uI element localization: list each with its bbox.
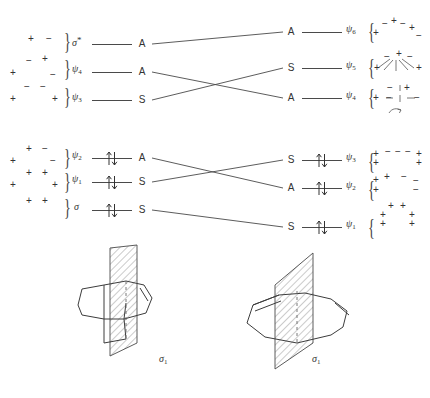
- orbital-sign: +: [42, 196, 48, 206]
- orbital-sign: +: [26, 168, 32, 178]
- correlation-line-6: [152, 210, 283, 227]
- orbital-label-psi2-right: ψ2: [346, 179, 356, 192]
- orbital-label-psi3-right: ψ3: [346, 151, 356, 164]
- energy-level-line: [92, 44, 132, 45]
- orbital-sign: −: [40, 82, 46, 92]
- orbital-sign: +: [42, 168, 48, 178]
- orbital-sign: −: [382, 19, 388, 29]
- orbital-label-sigma-star: σ*: [72, 35, 81, 48]
- orbital-sign: +: [26, 196, 32, 206]
- electron-pair: [314, 153, 330, 168]
- orbital-sign: −: [416, 31, 422, 41]
- orbital-brace: }: [64, 85, 71, 108]
- correlation-line-1: [152, 32, 283, 44]
- symmetry-label: A: [136, 152, 148, 163]
- orbital-brace: }: [64, 170, 71, 193]
- orbital-sign: +: [10, 68, 16, 78]
- orbital-label-psi2: ψ2: [72, 149, 82, 162]
- orbital-correlation-diagram: + − } σ* A − + + − } ψ4 A − − + + } ψ3 S…: [0, 0, 430, 398]
- orbital-sign: −: [413, 185, 419, 195]
- orbital-sign: −: [395, 147, 401, 157]
- electron-pair: [104, 151, 120, 166]
- orbital-sign: +: [409, 23, 415, 33]
- mirror-plane: [275, 253, 313, 369]
- symmetry-label: A: [285, 92, 297, 103]
- orbital-sign: +: [26, 144, 32, 154]
- orbital-sign: +: [52, 180, 58, 190]
- orbital-sign: +: [10, 180, 16, 190]
- orbital-brace: {: [368, 216, 375, 239]
- electron-pair: [314, 220, 330, 235]
- orbital-sign: +: [396, 49, 402, 59]
- orbital-sign: −: [26, 56, 32, 66]
- energy-level-line: [302, 68, 342, 69]
- orbital-sign: +: [416, 63, 422, 73]
- symmetry-label: S: [136, 176, 148, 187]
- orbital-sign: −: [405, 147, 411, 157]
- orbital-sign: −: [50, 156, 56, 166]
- orbital-brace: }: [64, 146, 71, 169]
- orbital-annotation-arrow: [388, 106, 404, 116]
- orbital-sign: +: [373, 28, 379, 38]
- orbital-sign: +: [373, 185, 379, 195]
- orbital-label-psi6: ψ6: [346, 23, 356, 36]
- reactant-plane-label: σ1: [159, 353, 167, 366]
- orbital-label-psi1: ψ1: [72, 173, 82, 186]
- energy-level-line: [92, 72, 132, 73]
- energy-level-line: [302, 98, 342, 99]
- orbital-sign: +: [28, 34, 34, 44]
- orbital-sign: +: [42, 54, 48, 64]
- electron-pair: [104, 175, 120, 190]
- orbital-sign: +: [416, 158, 422, 168]
- symmetry-label: A: [136, 66, 148, 77]
- symmetry-label: S: [285, 62, 297, 73]
- orbital-sign: −: [50, 70, 56, 80]
- orbital-label-psi4-right: ψ4: [346, 89, 356, 102]
- symmetry-label: A: [136, 38, 148, 49]
- orbital-sign: +: [409, 219, 415, 229]
- orbital-sign: +: [391, 16, 397, 26]
- orbital-sign: +: [388, 201, 394, 211]
- electron-pair: [314, 181, 330, 196]
- orbital-sign: −: [24, 82, 30, 92]
- orbital-sign: −: [46, 34, 52, 44]
- orbital-sign: +: [380, 219, 386, 229]
- correlation-line-3: [152, 68, 283, 100]
- correlation-line-2: [152, 72, 283, 98]
- correlation-line-4: [152, 158, 283, 188]
- orbital-brace: }: [64, 57, 71, 80]
- correlation-line-5: [152, 160, 283, 182]
- product-plane-label: σ1: [312, 353, 320, 366]
- orbital-sign: +: [52, 94, 58, 104]
- orbital-sign: +: [384, 172, 390, 182]
- symmetry-label: A: [285, 26, 297, 37]
- orbital-sign: +: [373, 158, 379, 168]
- orbital-sign: −: [42, 144, 48, 154]
- orbital-sign: +: [10, 94, 16, 104]
- symmetry-label: S: [285, 154, 297, 165]
- reactant-structure: [60, 243, 210, 378]
- orbital-sign: −: [385, 147, 391, 157]
- symmetry-label: S: [285, 221, 297, 232]
- energy-level-line: [92, 100, 132, 101]
- orbital-brace: }: [64, 196, 71, 219]
- product-structure: [235, 243, 385, 378]
- orbital-label-psi5: ψ5: [346, 59, 356, 72]
- symmetry-label: S: [136, 204, 148, 215]
- orbital-sign: −: [407, 52, 413, 62]
- orbital-sign: −: [401, 172, 407, 182]
- orbital-sign: −: [384, 52, 390, 62]
- orbital-sign: +: [10, 156, 16, 166]
- orbital-label-psi3: ψ3: [72, 91, 82, 104]
- orbital-brace: }: [64, 30, 71, 53]
- symmetry-label: A: [285, 182, 297, 193]
- orbital-label-sigma: σ: [74, 201, 79, 212]
- orbital-sign: −: [400, 19, 406, 29]
- orbital-label-psi4: ψ4: [72, 63, 82, 76]
- electron-pair: [104, 203, 120, 218]
- orbital-sign: +: [400, 201, 406, 211]
- orbital-nodal-marks: [378, 84, 422, 106]
- orbital-label-psi1-right: ψ1: [346, 218, 356, 231]
- energy-level-line: [302, 32, 342, 33]
- symmetry-label: S: [136, 94, 148, 105]
